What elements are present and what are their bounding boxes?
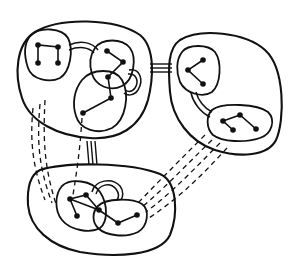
subcluster-b2	[208, 105, 273, 141]
dashed-bundle-a-to-c-left	[32, 100, 57, 207]
graph-node	[35, 42, 41, 48]
cluster-a	[18, 21, 152, 138]
cluster-a-boundary	[18, 21, 152, 138]
cluster-c	[28, 164, 175, 255]
graph-node	[96, 207, 102, 213]
graph-node	[105, 74, 111, 80]
clustered-graph-diagram	[0, 0, 290, 272]
graph-node	[115, 220, 121, 226]
graph-node	[55, 44, 61, 50]
cluster-b	[169, 33, 282, 154]
dashed-bundle-a3-to-c1	[73, 118, 82, 195]
dashed-bundle-b-to-c	[138, 135, 227, 218]
graph-node	[67, 196, 73, 202]
graph-node	[104, 48, 110, 54]
graph-node	[74, 213, 80, 219]
graph-node	[200, 81, 206, 87]
graph-node	[55, 60, 61, 66]
graph-node	[134, 212, 140, 218]
graph-node	[185, 67, 191, 73]
graph-node	[253, 126, 259, 132]
subcluster-c2	[94, 200, 147, 236]
graph-node	[120, 59, 126, 65]
graph-node	[220, 118, 226, 124]
subcluster-a1	[25, 29, 71, 80]
graph-node	[200, 57, 206, 63]
graph-node	[35, 60, 41, 66]
graph-node	[80, 110, 86, 116]
graph-node	[230, 127, 236, 133]
subcluster-b1	[177, 46, 219, 95]
loop-connector-c1-c2	[92, 181, 123, 200]
triple-connector-a-to-c	[87, 141, 97, 165]
graph-node	[83, 192, 89, 198]
graph-node	[237, 112, 243, 118]
graph-node	[108, 95, 114, 101]
